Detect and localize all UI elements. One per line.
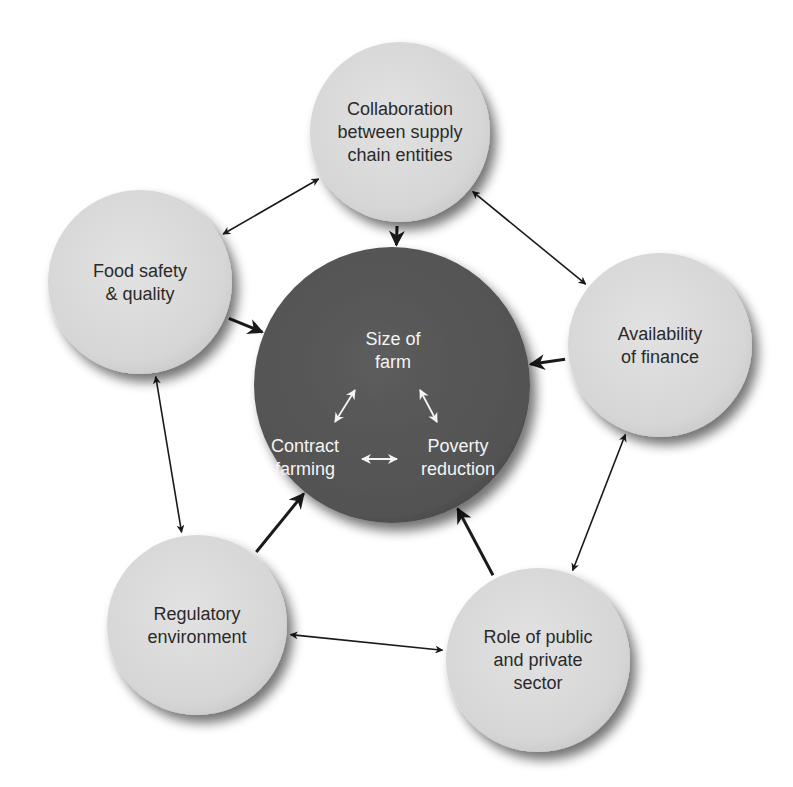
- arrow-food-to-center: [229, 318, 263, 332]
- edge-food-regulatory: [156, 377, 182, 533]
- node-circle: [48, 190, 232, 374]
- arrow-finance-to-center: [530, 359, 565, 364]
- node-label-line: and private: [493, 650, 582, 670]
- node-label-line: Availability: [618, 324, 703, 344]
- node-label-line: Collaboration: [347, 99, 453, 119]
- center-label-poverty: Poverty: [427, 436, 488, 456]
- arrow-regulatory-to-center: [256, 494, 303, 552]
- center-layer: Size offarmContractfarmingPovertyreducti…: [254, 247, 530, 523]
- edge-collaboration-food: [223, 179, 318, 234]
- node-regulatory: Regulatoryenvironment: [107, 535, 287, 715]
- center-label-contract: farming: [275, 459, 335, 479]
- node-label-line: Role of public: [483, 627, 592, 647]
- center-label-poverty: reduction: [421, 459, 495, 479]
- node-label-line: & quality: [105, 284, 174, 304]
- node-label-line: Regulatory: [153, 604, 240, 624]
- edge-finance-role: [573, 435, 626, 571]
- center-label-contract: Contract: [271, 436, 339, 456]
- center-circle: [254, 247, 530, 523]
- node-role: Role of publicand privatesector: [446, 568, 630, 752]
- node-label-line: environment: [147, 627, 246, 647]
- node-food: Food safety& quality: [48, 190, 232, 374]
- center-label-size: farm: [375, 352, 411, 372]
- diagram-canvas: Collaborationbetween supplychain entitie…: [0, 0, 793, 787]
- edge-collaboration-finance: [473, 192, 586, 285]
- arrow-role-to-center: [458, 509, 493, 576]
- node-label-line: chain entities: [347, 145, 452, 165]
- node-label-line: Food safety: [93, 261, 187, 281]
- node-finance: Availabilityof finance: [568, 253, 752, 437]
- edge-regulatory-role: [291, 635, 443, 651]
- node-circle: [107, 535, 287, 715]
- node-label-line: sector: [513, 673, 562, 693]
- node-collaboration: Collaborationbetween supplychain entitie…: [310, 42, 490, 222]
- node-circle: [568, 253, 752, 437]
- node-label-line: between supply: [337, 122, 462, 142]
- center-label-size: Size of: [365, 329, 421, 349]
- arrow-collaboration-to-center: [396, 226, 397, 245]
- node-label-line: of finance: [621, 347, 699, 367]
